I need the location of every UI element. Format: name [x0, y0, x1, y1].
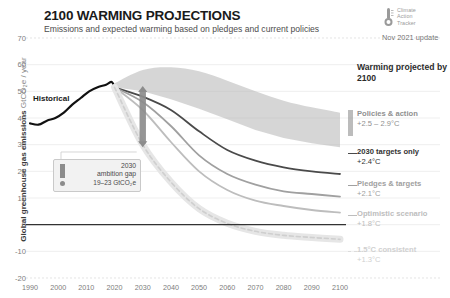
- gap-year: 2030: [54, 162, 136, 169]
- y-tick-20: 20: [0, 167, 26, 176]
- y-tick-0: 0: [0, 220, 26, 229]
- y-tick-50: 50: [0, 87, 26, 96]
- legend-value-4: +1.3°C: [357, 255, 450, 264]
- legend-value-3: +1.8°C: [357, 219, 450, 228]
- y-tick-60: 60: [0, 60, 26, 69]
- legend-value-0: +2.5 – 2.9°C: [357, 119, 450, 128]
- legend-swatch-3: [348, 215, 357, 216]
- y-tick-70: 70: [0, 34, 26, 43]
- legend-item-0[interactable]: Policies & action+2.5 – 2.9°C: [357, 110, 450, 128]
- legend-swatch-4: [348, 251, 357, 252]
- legend-label-2: Pledges & targets: [357, 180, 450, 189]
- y-tick-10: 10: [0, 194, 26, 203]
- gap-value: 19–23 GtCO₂e: [54, 179, 136, 186]
- legend-swatch-0: [348, 110, 353, 136]
- legend-swatch-2: [348, 185, 357, 186]
- legend-label-1: 2030 targets only: [357, 148, 450, 157]
- y-tick--20: -20: [0, 274, 26, 283]
- y-tick-30: 30: [0, 140, 26, 149]
- legend-item-4[interactable]: 1.5°C consistent+1.3°C: [357, 246, 450, 264]
- y-tick-40: 40: [0, 114, 26, 123]
- gap-title: ambition gap: [54, 170, 136, 177]
- historical-label: Historical: [33, 94, 69, 103]
- legend-label-3: Optimistic scenario: [357, 210, 450, 219]
- ambition-gap-box: 2030 ambition gap 19–23 GtCO₂e: [53, 159, 141, 192]
- y-tick--10: -10: [0, 247, 26, 256]
- legend-item-2[interactable]: Pledges & targets+2.1°C: [357, 180, 450, 198]
- legend-swatch-1: [348, 153, 357, 154]
- x-tick-2100: 2100: [323, 283, 357, 292]
- legend-label-0: Policies & action: [357, 110, 450, 119]
- legend-value-2: +2.1°C: [357, 189, 450, 198]
- legend-value-1: +2.4°C: [357, 157, 450, 166]
- legend-heading: Warming projected by 2100: [357, 62, 449, 83]
- legend-item-1[interactable]: 2030 targets only+2.4°C: [357, 148, 450, 166]
- legend-item-3[interactable]: Optimistic scenario+1.8°C: [357, 210, 450, 228]
- legend-label-4: 1.5°C consistent: [357, 246, 450, 255]
